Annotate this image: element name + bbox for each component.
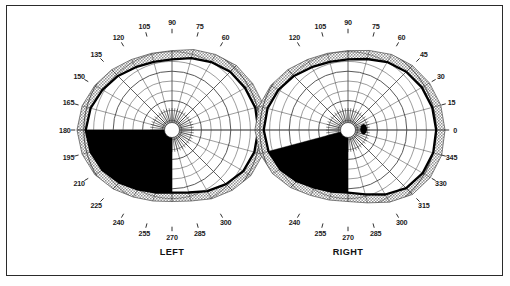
meridian-label: 180: [59, 126, 71, 135]
meridian-label: 60: [222, 33, 230, 42]
meridian-label: 0: [453, 126, 457, 135]
meridian-label: 315: [418, 201, 430, 210]
meridian-tick: [121, 42, 123, 46]
meridian-label: 105: [315, 22, 327, 31]
meridian-label: 255: [139, 229, 151, 238]
charts-container: 1201059075601351501651801952102252402552…: [0, 0, 510, 286]
meridian-label: 30: [437, 72, 445, 81]
meridian-label: 255: [315, 229, 327, 238]
meridian-tick: [297, 42, 299, 46]
meridian-label: 285: [370, 229, 382, 238]
meridian-tick: [322, 223, 323, 227]
meridian-label: 120: [289, 33, 301, 42]
eye-caption-left: LEFT: [160, 247, 185, 257]
meridian-label: 165: [63, 98, 75, 107]
meridian-tick: [100, 58, 103, 61]
meridian-tick: [441, 104, 445, 105]
meridian-label: 225: [90, 201, 102, 210]
meridian-label: 120: [113, 33, 125, 42]
meridian-label: 150: [73, 72, 85, 81]
meridian-label: 240: [289, 218, 301, 227]
meridian-tick: [100, 198, 103, 201]
visual-field-svg: 1201059075601351501651801952102252402552…: [0, 0, 510, 286]
meridian-label: 75: [372, 22, 380, 31]
meridian-label: 105: [139, 22, 151, 31]
fovea-marker: [165, 123, 180, 138]
meridian-label: 90: [168, 18, 176, 27]
meridian-tick: [322, 32, 323, 36]
meridian-tick: [297, 214, 299, 218]
meridian-label: 75: [196, 22, 204, 31]
meridian-tick: [84, 178, 88, 180]
meridian-label: 270: [342, 233, 354, 242]
meridian-tick: [373, 223, 374, 227]
meridian-label: 45: [420, 50, 428, 59]
meridian-label: 270: [166, 233, 178, 242]
meridian-tick: [197, 32, 198, 36]
meridian-label: 330: [435, 179, 447, 188]
meridian-label: 300: [396, 218, 408, 227]
meridian-tick: [220, 42, 222, 46]
meridian-tick: [121, 214, 123, 218]
meridian-tick: [146, 223, 147, 227]
meridian-label: 195: [63, 153, 75, 162]
meridian-tick: [396, 42, 398, 46]
blind-spot-marker: [360, 124, 367, 134]
meridian-label: 135: [90, 50, 102, 59]
meridian-tick: [146, 32, 147, 36]
eye-caption-right: RIGHT: [333, 247, 364, 257]
meridian-tick: [74, 155, 78, 156]
meridian-tick: [197, 223, 198, 227]
meridian-tick: [220, 214, 222, 218]
meridian-tick: [396, 214, 398, 218]
meridian-label: 240: [113, 218, 125, 227]
right-eye-field: 1201059075602402552702853004530150345330…: [243, 18, 457, 257]
left-eye-field: 1201059075601351501651801952102252402552…: [59, 18, 269, 257]
meridian-tick: [74, 104, 78, 105]
perimetry-figure: 1201059075601351501651801952102252402552…: [0, 0, 510, 286]
meridian-tick: [373, 32, 374, 36]
meridian-label: 60: [398, 33, 406, 42]
meridian-tick: [432, 79, 436, 81]
meridian-label: 15: [448, 98, 456, 107]
meridian-tick: [416, 58, 419, 61]
meridian-label: 345: [446, 153, 458, 162]
meridian-label: 90: [344, 18, 352, 27]
meridian-label: 210: [73, 179, 85, 188]
fovea-marker: [341, 123, 356, 138]
meridian-label: 300: [220, 218, 232, 227]
meridian-tick: [84, 79, 88, 81]
meridian-label: 285: [194, 229, 206, 238]
